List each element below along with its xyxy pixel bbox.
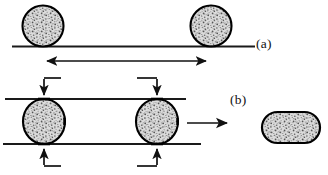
top-force-arrow-right: [137, 78, 157, 95]
bottom-force-arrow-right: [137, 149, 157, 166]
compressed-sphere-left: [23, 99, 65, 144]
panel-label-b: (b): [230, 93, 246, 107]
sphere-right: [191, 6, 232, 47]
flattened-capsule: [262, 112, 320, 143]
bottom-force-arrow-left: [44, 149, 61, 166]
compressed-sphere-right: [136, 99, 178, 144]
figure-canvas: [0, 0, 328, 175]
panel-label-a: (a): [256, 37, 272, 51]
sphere-left: [23, 6, 64, 47]
top-force-arrow-left: [44, 78, 61, 95]
panel-b-group: [3, 78, 320, 166]
panel-a-group: [12, 6, 255, 62]
deformation-figure: (a) (b): [0, 0, 328, 175]
